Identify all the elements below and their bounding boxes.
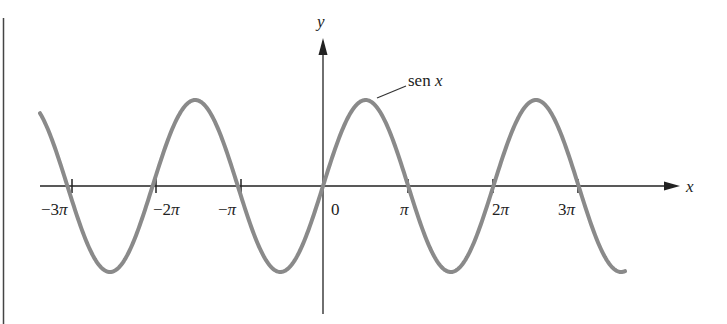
tick-label-3pi: 3π [558,200,576,219]
tick-label-neg-pi: −π [218,200,237,219]
tick-label-2pi: 2π [492,200,510,219]
curve-label-leader [377,86,406,98]
sine-chart: sen x x y −3π −2π −π 0 π 2π 3π [0,0,727,324]
x-tick-labels: −3π −2π −π 0 π 2π 3π [41,200,576,219]
y-axis-label: y [315,12,325,31]
tick-label-neg-3pi: −3π [41,200,68,219]
y-axis-arrow-icon [319,38,328,55]
tick-label-pi: π [400,200,409,219]
curve-label: sen x [408,71,443,90]
x-axis-label: x [685,177,694,196]
tick-label-zero: 0 [331,200,340,219]
x-axis-arrow-icon [664,182,680,191]
tick-label-neg-2pi: −2π [153,200,180,219]
